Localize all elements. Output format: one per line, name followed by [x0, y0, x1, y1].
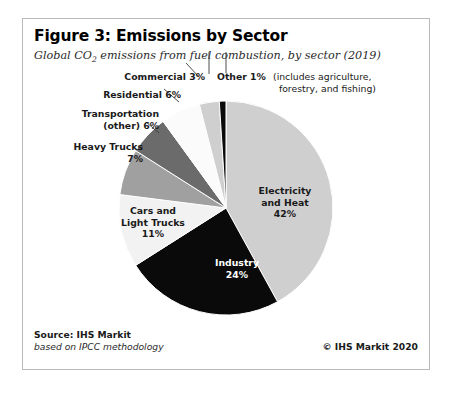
copyright-label: © IHS Markit 2020 — [322, 341, 418, 352]
slice-label-residential: Residential 6% — [65, 89, 181, 101]
source-label: Source: IHS Markit — [34, 329, 131, 340]
figure-card: Figure 3: Emissions by Sector Global CO2… — [22, 18, 430, 370]
slice-label-other: Other 1% — [217, 71, 277, 83]
methodology-label: based on IPCC methodology — [34, 341, 164, 352]
slice-label-commercial: Commercial 3% — [95, 71, 205, 83]
slice-label-cars-and-light-trucks: Cars and Light Trucks 11% — [109, 205, 197, 240]
slice-label-industry: Industry 24% — [198, 257, 276, 280]
slice-note-other: (includes agriculture, forestry, and fis… — [273, 71, 423, 94]
slice-label-transportation-other: Transportation (other) 6% — [45, 108, 159, 131]
slice-label-heavy-trucks: Heavy Trucks 7% — [35, 141, 143, 164]
slice-label-electricity-and-heat: Electricity and Heat 42% — [244, 185, 326, 220]
pie-chart: Electricity and Heat 42% Industry 24% Ca… — [23, 19, 431, 371]
